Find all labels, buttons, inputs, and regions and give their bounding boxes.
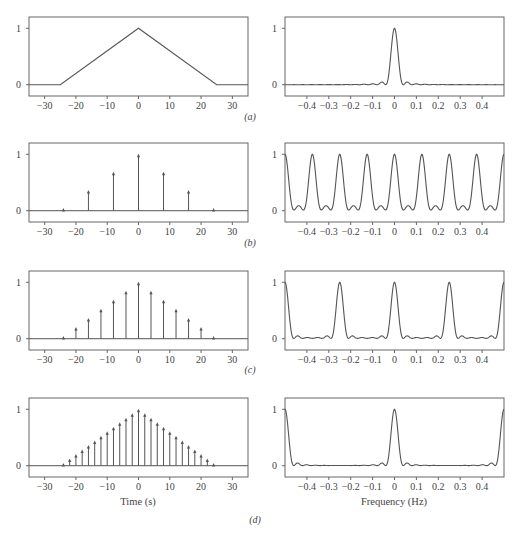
x-tick-label: −0.4 — [298, 226, 316, 237]
x-tick-label: −0.4 — [298, 100, 316, 111]
panel-d-left: −30−20−10010203001 — [16, 398, 248, 492]
arrow-head-icon — [74, 454, 77, 458]
arrow-head-icon — [212, 463, 215, 467]
x-tick-label: 30 — [227, 100, 237, 111]
y-tick-label: 0 — [16, 333, 21, 344]
arrow-head-icon — [124, 418, 127, 422]
y-tick-label: 1 — [16, 149, 21, 160]
arrow-head-icon — [74, 327, 77, 331]
arrow-head-icon — [112, 172, 115, 176]
x-tick-label: −30 — [37, 481, 53, 492]
arrow-head-icon — [112, 427, 115, 431]
arrow-head-icon — [187, 445, 190, 449]
x-tick-label: −10 — [99, 226, 115, 237]
arrow-head-icon — [93, 440, 96, 444]
x-tick-label: 0 — [392, 226, 397, 237]
x-tick-label: 0.4 — [476, 100, 489, 111]
x-tick-label: −10 — [99, 481, 115, 492]
x-tick-label: 20 — [196, 226, 206, 237]
x-tick-label: −0.1 — [364, 226, 382, 237]
arrow-head-icon — [174, 309, 177, 313]
y-tick-label: 0 — [272, 460, 277, 471]
signal-line — [29, 28, 248, 84]
caption-c: (c) — [244, 364, 256, 376]
arrow-head-icon — [149, 291, 152, 295]
arrow-head-icon — [162, 300, 165, 304]
y-tick-label: 1 — [16, 404, 21, 415]
y-tick-label: 0 — [16, 79, 21, 90]
time-axis-label: Time (s) — [120, 496, 156, 508]
x-tick-label: 0.2 — [432, 481, 445, 492]
x-tick-label: −0.4 — [298, 481, 316, 492]
y-tick-label: 1 — [272, 277, 277, 288]
y-tick-label: 0 — [272, 333, 277, 344]
x-tick-label: 30 — [227, 354, 237, 365]
caption-a: (a) — [244, 111, 256, 123]
arrow-head-icon — [87, 318, 90, 322]
x-tick-label: −0.1 — [364, 354, 382, 365]
arrow-head-icon — [187, 318, 190, 322]
y-tick-label: 0 — [272, 79, 277, 90]
x-tick-label: 0.2 — [432, 100, 445, 111]
figure: −30−20−10010203001−0.4−0.3−0.2−0.100.10.… — [0, 0, 515, 535]
x-tick-label: 0.1 — [410, 100, 423, 111]
x-tick-label: −0.2 — [342, 481, 360, 492]
x-tick-label: 0.2 — [432, 354, 445, 365]
x-tick-label: −0.1 — [364, 100, 382, 111]
arrow-head-icon — [62, 336, 65, 340]
x-tick-label: −0.3 — [320, 354, 338, 365]
x-tick-label: 0.4 — [476, 226, 489, 237]
panel-a-right: −0.4−0.3−0.2−0.100.10.20.30.401 — [272, 17, 504, 111]
x-tick-label: 10 — [165, 481, 175, 492]
x-tick-label: 20 — [196, 481, 206, 492]
x-tick-label: 0.1 — [410, 481, 423, 492]
x-tick-label: 0.3 — [454, 354, 467, 365]
x-tick-label: 0 — [136, 354, 141, 365]
x-tick-label: 0.2 — [432, 226, 445, 237]
arrow-head-icon — [99, 436, 102, 440]
y-tick-label: 1 — [272, 404, 277, 415]
x-tick-label: 30 — [227, 226, 237, 237]
panel-b-left: −30−20−10010203001 — [16, 143, 248, 237]
panel-c-left: −30−20−10010203001 — [16, 271, 248, 365]
x-tick-label: −20 — [68, 226, 84, 237]
arrow-head-icon — [112, 300, 115, 304]
x-tick-label: −0.3 — [320, 100, 338, 111]
arrow-head-icon — [187, 190, 190, 194]
x-tick-label: 0.4 — [476, 354, 489, 365]
y-tick-label: 0 — [16, 460, 21, 471]
arrow-head-icon — [199, 454, 202, 458]
x-tick-label: −0.4 — [298, 354, 316, 365]
x-tick-label: −20 — [68, 481, 84, 492]
x-tick-label: 30 — [227, 481, 237, 492]
arrow-head-icon — [137, 409, 140, 413]
arrow-head-icon — [162, 427, 165, 431]
arrow-head-icon — [156, 422, 159, 426]
arrow-head-icon — [212, 336, 215, 340]
arrow-head-icon — [99, 309, 102, 313]
arrow-head-icon — [68, 458, 71, 462]
y-tick-label: 1 — [16, 277, 21, 288]
y-tick-label: 0 — [16, 205, 21, 216]
arrow-head-icon — [106, 431, 109, 435]
x-tick-label: 0.3 — [454, 481, 467, 492]
panel-c-right: −0.4−0.3−0.2−0.100.10.20.30.401 — [272, 271, 504, 365]
x-tick-label: 0 — [136, 226, 141, 237]
y-tick-label: 1 — [16, 23, 21, 34]
spectrum-line — [285, 154, 504, 210]
panel-a-left: −30−20−10010203001 — [16, 17, 248, 111]
arrow-head-icon — [206, 458, 209, 462]
x-tick-label: 10 — [165, 100, 175, 111]
x-tick-label: −30 — [37, 100, 53, 111]
arrow-head-icon — [62, 463, 65, 467]
arrow-head-icon — [212, 208, 215, 212]
panel-b-right: −0.4−0.3−0.2−0.100.10.20.30.401 — [272, 143, 504, 237]
spectrum-line — [285, 282, 504, 338]
spectrum-line — [285, 409, 504, 465]
arrow-head-icon — [193, 449, 196, 453]
x-tick-label: 0.1 — [410, 354, 423, 365]
arrow-head-icon — [199, 327, 202, 331]
x-tick-label: −10 — [99, 354, 115, 365]
arrow-head-icon — [137, 282, 140, 286]
arrow-head-icon — [137, 154, 140, 158]
